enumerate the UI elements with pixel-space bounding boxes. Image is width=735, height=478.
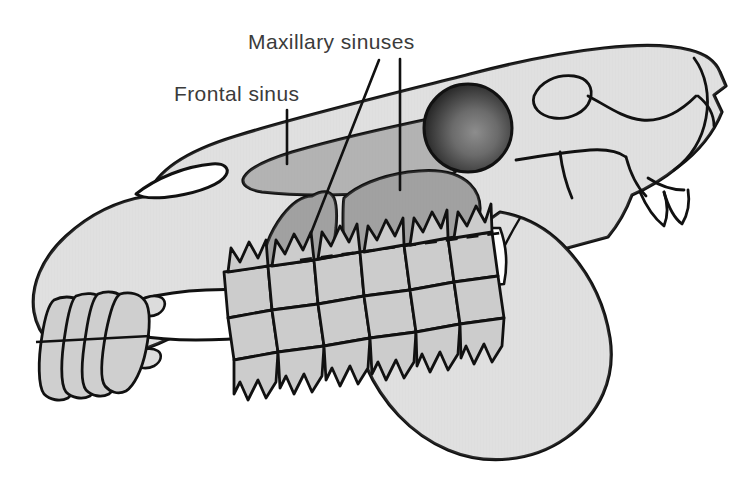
figure-root: Maxillary sinuses Frontal sinus <box>0 0 735 478</box>
orbit <box>424 84 512 172</box>
label-frontal-sinus: Frontal sinus <box>174 82 299 106</box>
incisors <box>36 292 150 400</box>
skull-diagram <box>0 0 735 478</box>
label-maxillary-sinuses: Maxillary sinuses <box>248 30 415 54</box>
